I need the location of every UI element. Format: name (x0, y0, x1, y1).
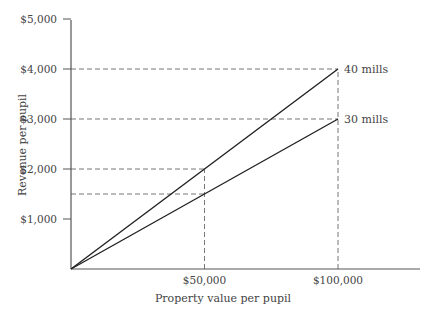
series-label: 30 mills (344, 113, 388, 126)
y-axis-title: Revenue per pupil (16, 93, 29, 196)
y-tick-label: $4,000 (20, 63, 57, 75)
y-tick-label: $5,000 (20, 13, 57, 25)
x-axis-title: Property value per pupil (155, 292, 292, 305)
axes (71, 20, 420, 269)
x-axis-ticks: $50,000$100,000 (183, 274, 363, 286)
x-tick-label: $100,000 (313, 274, 363, 286)
series-label: 40 mills (344, 63, 388, 76)
y-tick-label: $1,000 (20, 213, 57, 225)
x-tick-label: $50,000 (183, 274, 226, 286)
revenue-vs-property-chart: $1,000$2,000$3,000$4,000$5,000 $50,000$1… (0, 0, 435, 318)
data-series: 40 mills30 mills (71, 63, 388, 270)
